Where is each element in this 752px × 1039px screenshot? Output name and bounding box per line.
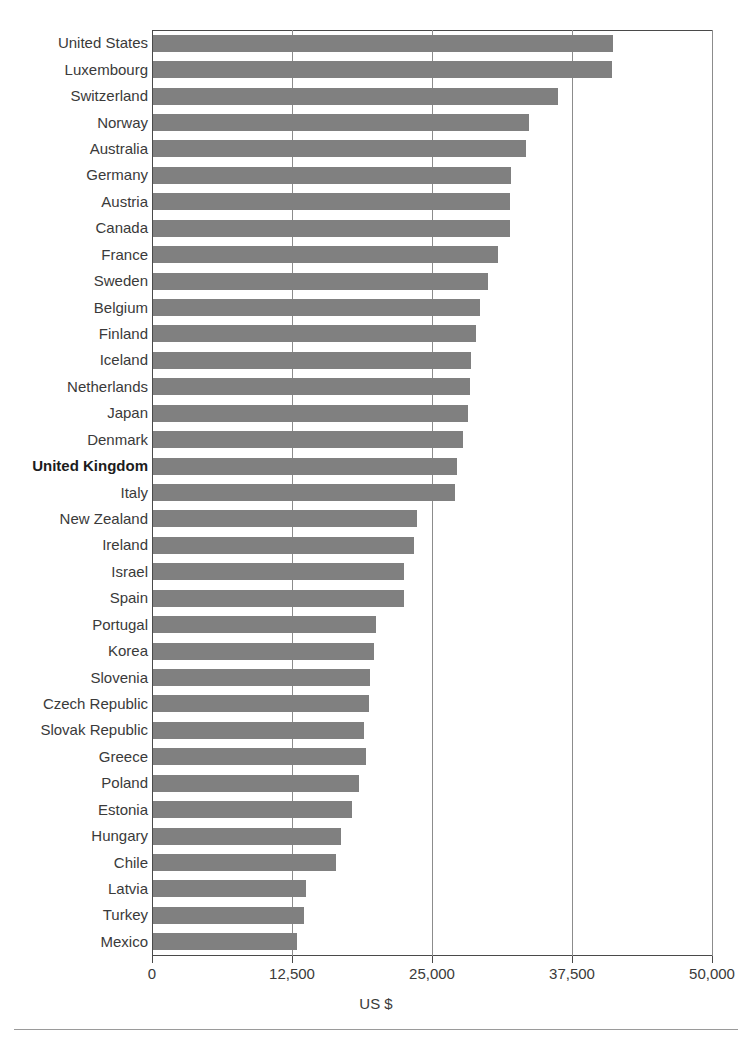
bar-chart: 012,50025,00037,50050,000 United StatesL… [0, 0, 752, 1039]
category-label-latvia: Latvia [108, 880, 148, 897]
bar-switzerland[interactable] [153, 88, 558, 105]
category-label-canada: Canada [95, 219, 148, 236]
bar-belgium[interactable] [153, 299, 480, 316]
bar-czech-republic[interactable] [153, 695, 369, 712]
category-label-turkey: Turkey [103, 906, 148, 923]
x-tick-label: 25,000 [409, 965, 455, 982]
bar-mexico[interactable] [153, 933, 297, 950]
bar-japan[interactable] [153, 405, 468, 422]
category-label-austria: Austria [101, 193, 148, 210]
category-label-united-states: United States [58, 34, 148, 51]
bar-spain[interactable] [153, 590, 404, 607]
category-label-spain: Spain [110, 589, 148, 606]
tick-mark-50000 [712, 956, 713, 963]
bar-luxembourg[interactable] [153, 61, 612, 78]
category-label-portugal: Portugal [92, 616, 148, 633]
category-label-poland: Poland [101, 774, 148, 791]
category-label-belgium: Belgium [94, 299, 148, 316]
category-label-norway: Norway [97, 114, 148, 131]
category-label-sweden: Sweden [94, 272, 148, 289]
gridline-50000 [712, 30, 713, 956]
bar-iceland[interactable] [153, 352, 471, 369]
category-label-luxembourg: Luxembourg [65, 61, 148, 78]
bar-ireland[interactable] [153, 537, 414, 554]
category-label-new-zealand: New Zealand [60, 510, 148, 527]
x-tick-label: 0 [148, 965, 156, 982]
category-label-chile: Chile [114, 854, 148, 871]
bar-denmark[interactable] [153, 431, 463, 448]
bar-italy[interactable] [153, 484, 455, 501]
category-label-united-kingdom: United Kingdom [32, 457, 148, 474]
bar-chile[interactable] [153, 854, 336, 871]
category-label-switzerland: Switzerland [70, 87, 148, 104]
category-label-germany: Germany [86, 166, 148, 183]
category-label-finland: Finland [99, 325, 148, 342]
category-label-israel: Israel [111, 563, 148, 580]
category-label-italy: Italy [120, 484, 148, 501]
bar-korea[interactable] [153, 643, 374, 660]
bar-portugal[interactable] [153, 616, 376, 633]
tick-mark-25000 [432, 956, 433, 963]
category-label-hungary: Hungary [91, 827, 148, 844]
category-label-iceland: Iceland [100, 351, 148, 368]
bar-australia[interactable] [153, 140, 526, 157]
category-label-slovak-republic: Slovak Republic [40, 721, 148, 738]
category-label-france: France [101, 246, 148, 263]
x-tick-label: 37,500 [549, 965, 595, 982]
tick-mark-37500 [572, 956, 573, 963]
bar-united-kingdom[interactable] [153, 458, 457, 475]
category-label-mexico: Mexico [100, 933, 148, 950]
bar-poland[interactable] [153, 775, 359, 792]
category-label-czech-republic: Czech Republic [43, 695, 148, 712]
bar-netherlands[interactable] [153, 378, 470, 395]
category-label-japan: Japan [107, 404, 148, 421]
bar-finland[interactable] [153, 325, 476, 342]
bar-new-zealand[interactable] [153, 510, 417, 527]
category-label-denmark: Denmark [87, 431, 148, 448]
bar-slovenia[interactable] [153, 669, 370, 686]
category-label-korea: Korea [108, 642, 148, 659]
category-label-slovenia: Slovenia [90, 669, 148, 686]
category-label-greece: Greece [99, 748, 148, 765]
bar-norway[interactable] [153, 114, 529, 131]
bar-turkey[interactable] [153, 907, 304, 924]
bar-united-states[interactable] [153, 35, 613, 52]
category-label-netherlands: Netherlands [67, 378, 148, 395]
bar-france[interactable] [153, 246, 498, 263]
x-tick-label: 12,500 [269, 965, 315, 982]
x-axis-title: US $ [0, 995, 752, 1012]
gridline-37500 [572, 30, 573, 956]
x-tick-label: 50,000 [689, 965, 735, 982]
tick-mark-12500 [292, 956, 293, 963]
category-label-estonia: Estonia [98, 801, 148, 818]
bar-slovak-republic[interactable] [153, 722, 364, 739]
category-label-australia: Australia [90, 140, 148, 157]
bar-sweden[interactable] [153, 273, 488, 290]
footer-divider [14, 1029, 738, 1030]
tick-mark-0 [152, 956, 153, 963]
bar-greece[interactable] [153, 748, 366, 765]
bar-austria[interactable] [153, 193, 510, 210]
bar-estonia[interactable] [153, 801, 352, 818]
bar-latvia[interactable] [153, 880, 306, 897]
bar-israel[interactable] [153, 563, 404, 580]
bar-germany[interactable] [153, 167, 511, 184]
bar-canada[interactable] [153, 220, 510, 237]
bar-hungary[interactable] [153, 828, 341, 845]
category-label-ireland: Ireland [102, 536, 148, 553]
